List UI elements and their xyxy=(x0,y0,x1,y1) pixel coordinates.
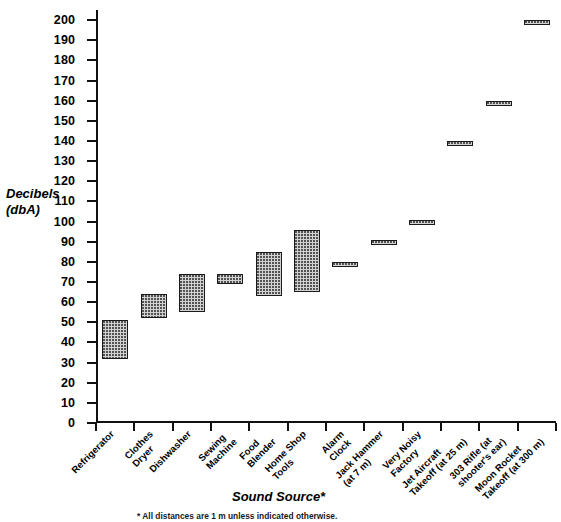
y-tick-label: 30 xyxy=(61,356,75,369)
y-axis-title-line2: (dbA) xyxy=(6,202,88,218)
y-tick-label: 70 xyxy=(61,276,75,289)
x-category-label: Sewing Machine xyxy=(197,429,240,472)
y-tick-label: 160 xyxy=(54,94,75,107)
y-tick xyxy=(87,281,96,283)
y-tick xyxy=(87,200,96,202)
y-tick-label: 50 xyxy=(61,316,75,329)
y-tick-label: 130 xyxy=(54,155,75,168)
y-tick xyxy=(87,261,96,263)
range-bar xyxy=(141,294,167,318)
y-tick-label: 110 xyxy=(55,195,75,208)
y-tick-label: 150 xyxy=(54,115,75,128)
range-bar xyxy=(447,141,473,146)
y-tick-label: 180 xyxy=(54,54,75,67)
y-tick xyxy=(87,301,96,303)
y-tick xyxy=(87,120,96,122)
range-bar xyxy=(409,220,435,225)
y-tick-label: 140 xyxy=(54,135,75,148)
y-tick-label: 60 xyxy=(61,296,75,309)
y-tick xyxy=(87,80,96,82)
y-tick xyxy=(87,100,96,102)
y-tick xyxy=(87,59,96,61)
y-tick xyxy=(87,341,96,343)
y-tick xyxy=(87,402,96,404)
range-bar xyxy=(332,262,358,267)
y-tick xyxy=(87,221,96,223)
plot-area: 0102030405060708090100110120130140150160… xyxy=(96,10,556,423)
x-axis-category-labels: RefrigeratorClothes DryerDishwasherSewin… xyxy=(96,429,556,519)
range-bar xyxy=(294,230,320,292)
y-tick-label: 10 xyxy=(61,397,75,410)
range-bar xyxy=(217,274,243,284)
y-tick xyxy=(87,160,96,162)
y-axis-line xyxy=(96,10,98,423)
y-tick xyxy=(87,19,96,21)
range-bar xyxy=(524,20,550,25)
y-tick-label: 40 xyxy=(61,336,75,349)
y-axis-title: Decibels (dbA) xyxy=(6,186,88,219)
y-tick xyxy=(87,382,96,384)
x-category-label: Refrigerator xyxy=(70,429,117,476)
y-tick xyxy=(87,180,96,182)
y-tick-label: 90 xyxy=(61,235,75,248)
y-tick-label: 170 xyxy=(54,74,75,87)
x-axis-title: Sound Source* xyxy=(232,489,325,504)
y-tick-label: 0 xyxy=(68,417,75,430)
y-tick-label: 100 xyxy=(54,215,75,228)
y-tick xyxy=(87,39,96,41)
y-tick xyxy=(87,140,96,142)
y-tick-label: 120 xyxy=(54,175,75,188)
decibel-range-chart: Decibels (dbA) 0102030405060708090100110… xyxy=(0,0,561,522)
y-tick-label: 200 xyxy=(54,14,75,27)
y-tick-label: 190 xyxy=(54,34,75,47)
y-tick xyxy=(87,321,96,323)
range-bar xyxy=(102,320,128,358)
range-bar xyxy=(486,101,512,106)
range-bar xyxy=(371,240,397,245)
chart-footnote: * All distances are 1 m unless indicated… xyxy=(137,511,337,521)
range-bar xyxy=(179,274,205,312)
y-tick xyxy=(87,241,96,243)
range-bar xyxy=(256,252,282,296)
y-axis-title-line1: Decibels xyxy=(6,186,88,202)
y-tick xyxy=(87,362,96,364)
y-tick-label: 80 xyxy=(61,256,75,269)
y-tick-label: 20 xyxy=(61,376,75,389)
